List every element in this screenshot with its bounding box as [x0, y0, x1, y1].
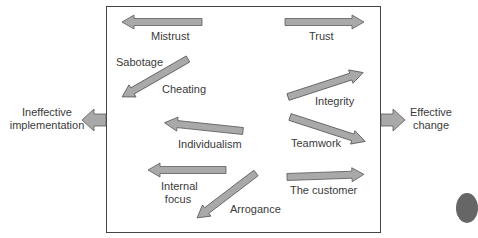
internal-focus-label: Internal focus	[161, 180, 195, 206]
arrogance-label: Arrogance	[230, 203, 281, 216]
ineffective-line1: Ineffective	[4, 106, 90, 119]
diagram-frame	[107, 7, 381, 233]
the-customer-label: The customer	[290, 184, 357, 197]
ineffective-line2: implementation	[4, 119, 90, 132]
effective-outcome-arrow-icon	[381, 109, 405, 131]
ineffective-implementation-label: Ineffective implementation	[4, 106, 90, 132]
trust-label: Trust	[309, 30, 334, 43]
cheating-label: Cheating	[162, 83, 206, 96]
mistrust-label: Mistrust	[151, 30, 190, 43]
effective-line1: Effective	[406, 106, 456, 119]
effective-change-label: Effective change	[406, 106, 456, 132]
integrity-label: Integrity	[315, 95, 354, 108]
sabotage-label: Sabotage	[116, 56, 163, 69]
effective-line2: change	[406, 119, 456, 132]
partial-circle-decoration	[456, 193, 478, 223]
teamwork-label: Teamwork	[291, 137, 341, 150]
internal-focus-line1: Internal	[161, 180, 195, 193]
individualism-label: Individualism	[178, 138, 242, 151]
internal-focus-line2: focus	[161, 193, 195, 206]
